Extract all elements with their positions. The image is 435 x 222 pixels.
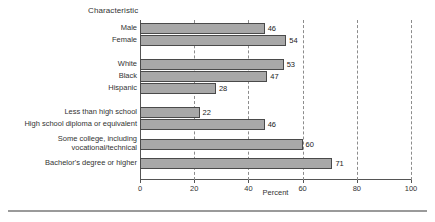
category-label: High school diploma or equivalent: [0, 120, 141, 129]
bar-value-label: 53: [287, 59, 295, 70]
category-label: Female: [0, 36, 141, 45]
category-label: White: [0, 60, 141, 69]
bar-value-label: 54: [289, 35, 297, 46]
footer-divider: [8, 210, 427, 212]
category-label: Hispanic: [0, 84, 141, 93]
x-tick: [248, 180, 249, 183]
bar: [140, 35, 286, 46]
bar-value-label: 46: [268, 119, 276, 130]
category-label: Black: [0, 72, 141, 81]
x-tick: [194, 180, 195, 183]
bar: [140, 119, 265, 130]
chart-title: Characteristic: [88, 6, 138, 15]
gridline: [303, 20, 304, 180]
x-tick: [357, 180, 358, 183]
category-label: Some college, including vocational/techn…: [0, 135, 141, 152]
bar-value-label: 60: [306, 139, 314, 150]
bar: [140, 71, 267, 82]
gridline: [411, 20, 412, 180]
gridline: [357, 20, 358, 180]
bar-chart-figure: Characteristic 020406080100 465453472822…: [0, 0, 435, 222]
x-axis-line: [140, 179, 411, 180]
bar: [140, 107, 200, 118]
bar: [140, 83, 216, 94]
bar-value-label: 22: [203, 107, 211, 118]
bar-value-label: 46: [268, 23, 276, 34]
bar: [140, 158, 332, 169]
bar: [140, 23, 265, 34]
bar-value-label: 28: [219, 83, 227, 94]
bar: [140, 59, 284, 70]
x-axis-title: Percent: [140, 188, 411, 197]
category-label: Male: [0, 24, 141, 33]
bar-value-label: 47: [270, 71, 278, 82]
x-tick: [411, 180, 412, 183]
plot-area: 020406080100 465453472822466071: [140, 20, 411, 180]
category-label: Bachelor's degree or higher: [0, 159, 141, 168]
category-label: Less than high school: [0, 108, 141, 117]
x-tick: [303, 180, 304, 183]
bar-value-label: 71: [335, 158, 343, 169]
x-tick: [140, 180, 141, 183]
bar: [140, 139, 303, 150]
